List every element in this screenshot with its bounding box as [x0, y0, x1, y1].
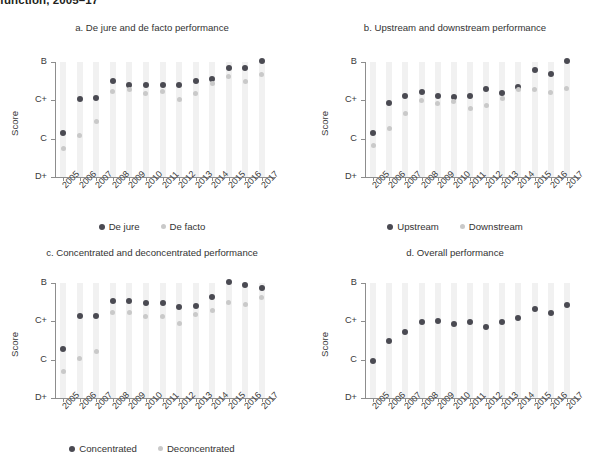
y-axis-label: Score: [319, 110, 330, 135]
grid-band: [515, 283, 521, 398]
data-point: [177, 321, 182, 326]
legend-item[interactable]: Upstream: [387, 221, 439, 232]
data-point: [143, 82, 149, 88]
data-point: [110, 298, 116, 304]
grid-band: [386, 62, 392, 177]
data-point: [60, 346, 66, 352]
y-tick-label: C: [331, 354, 357, 364]
grid-band: [60, 283, 66, 398]
grid-band: [259, 283, 265, 398]
y-tick-label: B: [21, 56, 47, 66]
data-point: [484, 103, 489, 108]
panel-title-b: b. Upstream and downstream performance: [303, 22, 607, 33]
data-point: [386, 338, 392, 344]
data-point: [243, 302, 248, 307]
data-point: [209, 294, 215, 300]
grid-band: [143, 62, 149, 177]
y-axis-label: Score: [319, 331, 330, 356]
legend-label: Deconcentrated: [167, 443, 235, 454]
data-point: [210, 308, 215, 313]
legend-label: Upstream: [397, 221, 439, 232]
data-point: [61, 146, 66, 151]
grid-band: [451, 283, 457, 398]
legend-item[interactable]: Concentrated: [69, 443, 137, 454]
data-point: [193, 78, 199, 84]
legend-swatch-dot-icon: [460, 224, 465, 229]
y-tick-mark: [51, 398, 55, 399]
legend-item[interactable]: Deconcentrated: [158, 443, 235, 454]
legend-item[interactable]: De jure: [99, 221, 140, 232]
legend-panel-b: UpstreamDownstream: [303, 221, 607, 232]
data-point: [176, 82, 182, 88]
grid-band: [435, 283, 441, 398]
y-tick-label: B: [331, 56, 357, 66]
grid-band: [242, 283, 248, 398]
y-tick-mark: [51, 100, 55, 101]
y-tick-mark: [361, 398, 365, 399]
data-point: [226, 300, 231, 305]
legend-swatch-dot-icon: [99, 224, 105, 230]
y-tick-mark: [361, 360, 365, 361]
grid-band: [483, 283, 489, 398]
panel-title-a: a. De jure and de facto performance: [0, 22, 304, 33]
y-tick-label: C+: [331, 315, 357, 325]
data-point: [435, 93, 441, 99]
data-point: [160, 314, 165, 319]
panel-a: a. De jure and de facto performanceD+CC+…: [0, 22, 304, 222]
panel-d: d. Overall performanceD+CC+BScore2005200…: [303, 247, 607, 447]
data-point: [61, 369, 66, 374]
data-point: [143, 300, 149, 306]
grid-band: [60, 62, 66, 177]
data-point: [371, 143, 376, 148]
data-point: [387, 126, 392, 131]
grid-band: [176, 62, 182, 177]
grid-band: [226, 62, 232, 177]
data-point: [226, 279, 232, 285]
grid-band: [483, 62, 489, 177]
grid-band: [126, 62, 132, 177]
y-tick-label: D+: [331, 392, 357, 402]
y-tick-label: D+: [331, 171, 357, 181]
grid-band: [209, 283, 215, 398]
y-tick-mark: [51, 321, 55, 322]
grid-band: [435, 62, 441, 177]
grid-band: [77, 62, 83, 177]
legend-label: De jure: [109, 221, 140, 232]
grid-band: [370, 283, 376, 398]
panel-b: b. Upstream and downstream performanceD+…: [303, 22, 607, 222]
grid-band: [176, 283, 182, 398]
y-axis-line: [365, 283, 366, 399]
y-tick-label: D+: [21, 392, 47, 402]
grid-band: [467, 62, 473, 177]
legend-panel-c: ConcentratedDeconcentrated: [0, 443, 304, 454]
grid-band: [499, 283, 505, 398]
y-tick-label: B: [331, 277, 357, 287]
y-tick-mark: [361, 283, 365, 284]
data-point: [193, 303, 199, 309]
y-tick-label: C: [331, 133, 357, 143]
data-point: [370, 358, 376, 364]
grid-band: [467, 283, 473, 398]
data-point: [532, 306, 538, 312]
grid-band: [370, 62, 376, 177]
data-point: [259, 58, 265, 64]
legend-label: Concentrated: [79, 443, 137, 454]
y-axis-label: Score: [9, 110, 20, 135]
data-point: [210, 81, 215, 86]
y-tick-mark: [51, 177, 55, 178]
grid-band: [499, 62, 505, 177]
panel-title-d: d. Overall performance: [303, 247, 607, 258]
data-point: [94, 349, 99, 354]
y-tick-mark: [51, 360, 55, 361]
legend-swatch-dot-icon: [158, 446, 163, 451]
legend-swatch-dot-icon: [69, 446, 75, 452]
legend-item[interactable]: De facto: [161, 221, 206, 232]
grid-band: [564, 283, 570, 398]
grid-band: [259, 62, 265, 177]
legend-label: De facto: [170, 221, 206, 232]
data-point: [370, 130, 376, 136]
data-point: [226, 65, 232, 71]
y-tick-mark: [361, 177, 365, 178]
legend-item[interactable]: Downstream: [460, 221, 523, 232]
data-point: [451, 99, 456, 104]
